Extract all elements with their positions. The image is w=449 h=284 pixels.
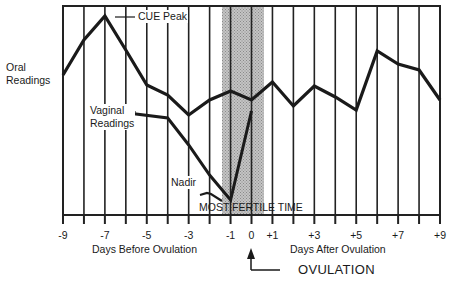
ovulation-label: OVULATION — [298, 263, 375, 276]
oral-label-line1: Oral — [6, 61, 50, 74]
x-axis-ticks — [63, 215, 440, 224]
vaginal-label-line2: Readings — [90, 117, 134, 130]
most-fertile-time-label: MOST FERTILE TIME — [199, 201, 303, 214]
x-tick-label: -3 — [184, 229, 193, 242]
nadir-bracket — [200, 193, 222, 201]
vaginal-label-line1: Vaginal — [90, 104, 134, 117]
oral-label-line2: Readings — [6, 74, 50, 87]
most-fertile-shade — [222, 7, 264, 215]
x-tick-label: 0 — [249, 229, 255, 242]
x-tick-label: +7 — [392, 229, 404, 242]
arrow-head-icon — [247, 248, 255, 259]
vaginal-readings-label: Vaginal Readings — [89, 104, 135, 130]
nadir-label: Nadir — [171, 176, 196, 189]
ovulation-arrow-icon — [251, 258, 280, 270]
x-tick-label: +9 — [434, 229, 446, 242]
days-before-label: Days Before Ovulation — [92, 243, 197, 256]
x-tick-label: -1 — [226, 229, 235, 242]
days-after-label: Days After Ovulation — [290, 243, 386, 256]
oral-readings-label: Oral Readings — [6, 61, 50, 87]
x-tick-label: +5 — [350, 229, 362, 242]
x-tick-label: -9 — [58, 229, 67, 242]
x-tick-label: -7 — [100, 229, 109, 242]
cue-peak-label: CUE Peak — [137, 10, 188, 23]
x-tick-label: +3 — [308, 229, 320, 242]
x-tick-label: +1 — [266, 229, 278, 242]
x-tick-label: -5 — [142, 229, 151, 242]
